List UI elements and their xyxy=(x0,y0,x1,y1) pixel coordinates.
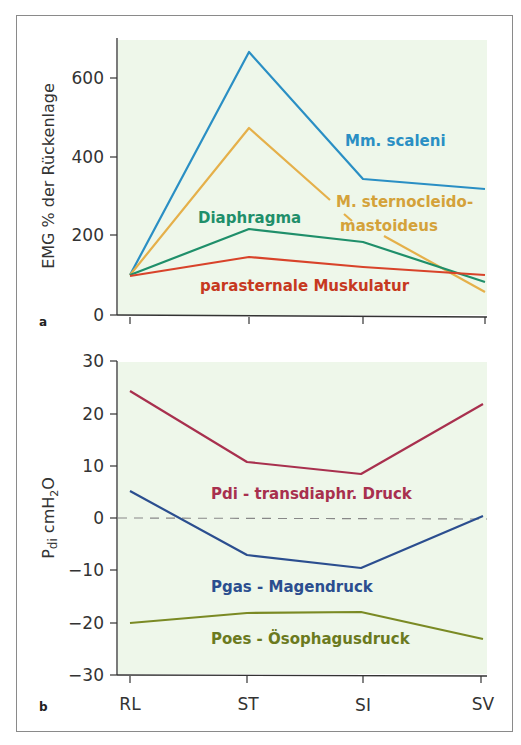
plot-area-a xyxy=(118,40,487,315)
y-tick-label-0: 0 xyxy=(93,508,104,528)
x-tick-label-sv: SV xyxy=(472,694,495,714)
figure-svg: 600 400 200 0 EMG % der Rückenlage a Mm.… xyxy=(0,0,521,745)
y-tick-label-minus-10: −10 xyxy=(68,560,104,580)
y-tick-label-600: 600 xyxy=(72,68,104,88)
label-parasternale-muskulatur: parasternale Muskulatur xyxy=(200,277,410,295)
label-poes: Poes - Ösophagusdruck xyxy=(211,629,411,648)
panel-letter-b: b xyxy=(39,700,48,714)
y-tick-label-400: 400 xyxy=(72,147,104,167)
y-tick-label-0: 0 xyxy=(93,305,104,325)
y-ticks-a xyxy=(110,78,117,315)
y-tick-label-30: 30 xyxy=(82,351,104,371)
y-tick-label-minus-30: −30 xyxy=(68,665,104,685)
x-ticks-b xyxy=(130,676,481,683)
label-diaphragma: Diaphragma xyxy=(198,209,301,227)
x-tick-label-st: ST xyxy=(237,694,259,714)
label-mm-scaleni: Mm. scaleni xyxy=(345,132,446,150)
y-axis-title-a: EMG % der Rückenlage xyxy=(39,83,58,269)
label-scm-line2: mastoideus xyxy=(340,217,438,235)
y-tick-label-200: 200 xyxy=(72,225,104,245)
label-pdi: Pdi - transdiaphr. Druck xyxy=(211,485,413,503)
x-tick-label-rl: RL xyxy=(119,694,141,714)
x-axis-b xyxy=(117,675,487,676)
label-pgas: Pgas - Magendruck xyxy=(211,578,374,596)
label-scm-line1: M. sternocleido- xyxy=(336,193,473,211)
panel-b: 30 20 10 0 −10 −20 −30 RL ST SI SV Pdi c… xyxy=(39,351,495,715)
x-ticks-a xyxy=(130,317,485,324)
y-tick-label-minus-20: −20 xyxy=(68,613,104,633)
y-axis-title-b: Pdi cmH2O xyxy=(39,477,61,559)
panel-a: 600 400 200 0 EMG % der Rückenlage a Mm.… xyxy=(39,38,487,329)
y-ticks-b xyxy=(110,361,117,675)
y-tick-label-20: 20 xyxy=(82,404,104,424)
x-axis-a xyxy=(117,315,487,317)
y-tick-label-10: 10 xyxy=(82,456,104,476)
x-tick-label-si: SI xyxy=(355,695,371,715)
panel-letter-a: a xyxy=(39,315,47,329)
